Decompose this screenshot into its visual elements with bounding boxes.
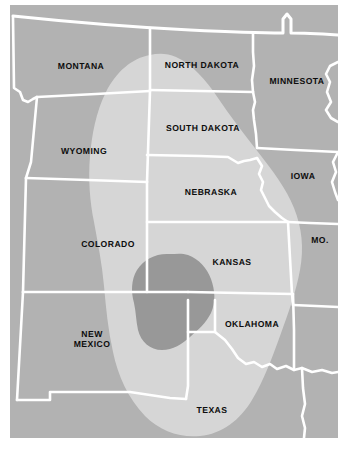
map-figure: MONTANA NORTH DAKOTA MINNESOTA SOUTH DAK… xyxy=(0,0,346,453)
caption-fragment xyxy=(8,443,128,450)
map-canvas xyxy=(0,0,346,453)
